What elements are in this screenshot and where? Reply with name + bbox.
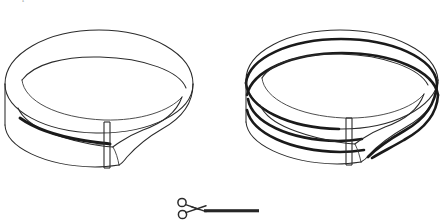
figure-root: p [0,0,443,222]
right-band-twist-crease [355,144,361,162]
right-band-inner-rim-front [262,78,424,118]
left-band-cut-line-1 [20,118,110,144]
clipped-top-caption: p [22,0,27,2]
right-band-twist-strand-2 [372,95,438,158]
right-band-cut-line-1 [246,39,437,83]
left-band-twist-inner-face [113,97,182,147]
left-band-figure [5,30,193,168]
cut-line-bar [204,209,259,212]
right-band-outer-top-rim [246,30,438,80]
scissors-icon [178,198,206,218]
left-band-inner-rim-front [22,80,182,120]
right-band-inner-top-rim [262,54,428,85]
right-band-twist-inner-face [355,94,424,144]
right-band-figure [246,30,438,165]
right-band-cut-line-2 [247,53,438,95]
diagram-canvas [0,0,443,222]
left-band-inner-top-rim [22,57,186,88]
cut-marker-group [178,198,259,218]
left-band-twist-crease [113,147,119,165]
